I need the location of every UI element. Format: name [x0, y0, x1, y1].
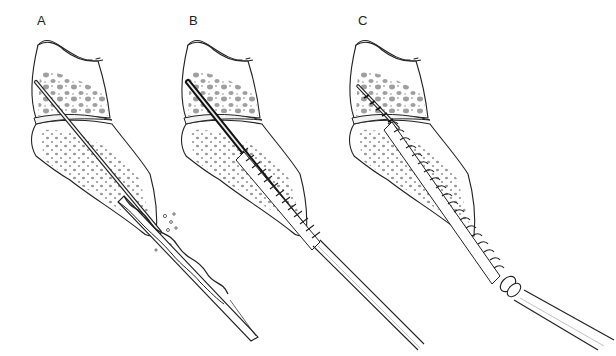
- illustration-canvas: [0, 0, 616, 356]
- screwdriver-icon: [512, 290, 614, 350]
- panel-c-screw-stage: [350, 41, 615, 350]
- twist-drill-icon: [118, 196, 258, 341]
- cannulated-screw-icon: [384, 122, 523, 299]
